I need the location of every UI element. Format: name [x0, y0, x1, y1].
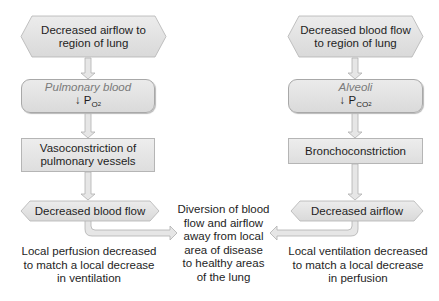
center-note-line3: away from local [170, 230, 277, 244]
left-start-line1: Decreased airflow to [41, 24, 146, 37]
right-result-label: Decreased airflow [311, 205, 403, 218]
decrease-arrow-icon: ↓ [340, 94, 346, 106]
center-note-line5: to healthy areas [170, 257, 277, 271]
left-note-line2: to match a local decrease [14, 259, 164, 273]
left-start-node: Decreased airflow to region of lung [20, 15, 167, 58]
left-note: Local perfusion decreased to match a loc… [14, 245, 164, 286]
arrow-right-2 [348, 113, 362, 138]
gas-subscript: CO [356, 100, 368, 109]
center-note: Diversion of blood flow and airflow away… [170, 203, 277, 284]
left-sensor-value: ↓ PO2 [75, 94, 101, 111]
right-result-node: Decreased airflow [290, 200, 424, 222]
right-note-line1: Local ventilation decreased [283, 245, 433, 259]
left-note-line3: in ventilation [14, 272, 164, 286]
arrow-left-2 [81, 113, 95, 138]
center-note-line4: area of disease [170, 244, 277, 258]
left-response-line2: pulmonary vessels [40, 155, 135, 168]
center-note-line1: Diversion of blood [170, 203, 277, 217]
arrow-left-1 [81, 58, 95, 79]
right-response-label: Bronchoconstriction [305, 145, 406, 158]
left-response-node: Vasoconstriction of pulmonary vessels [21, 138, 155, 172]
right-response-node: Bronchoconstriction [288, 138, 423, 164]
center-note-line2: flow and airflow [170, 217, 277, 231]
partial-pressure-symbol: P [348, 94, 356, 106]
right-sensor-value: ↓ PCO2 [340, 94, 372, 111]
arrow-right-3 [348, 164, 362, 200]
gas-subscript-number: 2 [368, 101, 371, 107]
gas-subscript-number: 2 [98, 101, 101, 107]
left-result-label: Decreased blood flow [35, 205, 146, 218]
right-note-line3: in perfusion [283, 272, 433, 286]
center-note-line6: of the lung [170, 271, 277, 285]
left-response-line1: Vasoconstriction of [40, 142, 136, 155]
right-sensor-label: Alveoli [339, 81, 373, 94]
right-sensor-node: Alveoli ↓ PCO2 [288, 79, 423, 113]
left-sensor-label: Pulmonary blood [45, 81, 131, 94]
left-note-line1: Local perfusion decreased [14, 245, 164, 259]
left-start-line2: region of lung [59, 37, 129, 50]
right-start-line2: to region of lung [314, 37, 396, 50]
left-sensor-node: Pulmonary blood ↓ PO2 [21, 79, 155, 113]
arrow-left-3 [81, 172, 95, 200]
right-start-node: Decreased blood flow to region of lung [287, 15, 424, 58]
right-start-line1: Decreased blood flow [300, 24, 411, 37]
partial-pressure-symbol: P [84, 94, 92, 106]
left-result-node: Decreased blood flow [20, 200, 160, 222]
right-note: Local ventilation decreased to match a l… [283, 245, 433, 286]
decrease-arrow-icon: ↓ [75, 94, 81, 106]
right-note-line2: to match a local decrease [283, 259, 433, 273]
arrow-right-1 [348, 58, 362, 79]
